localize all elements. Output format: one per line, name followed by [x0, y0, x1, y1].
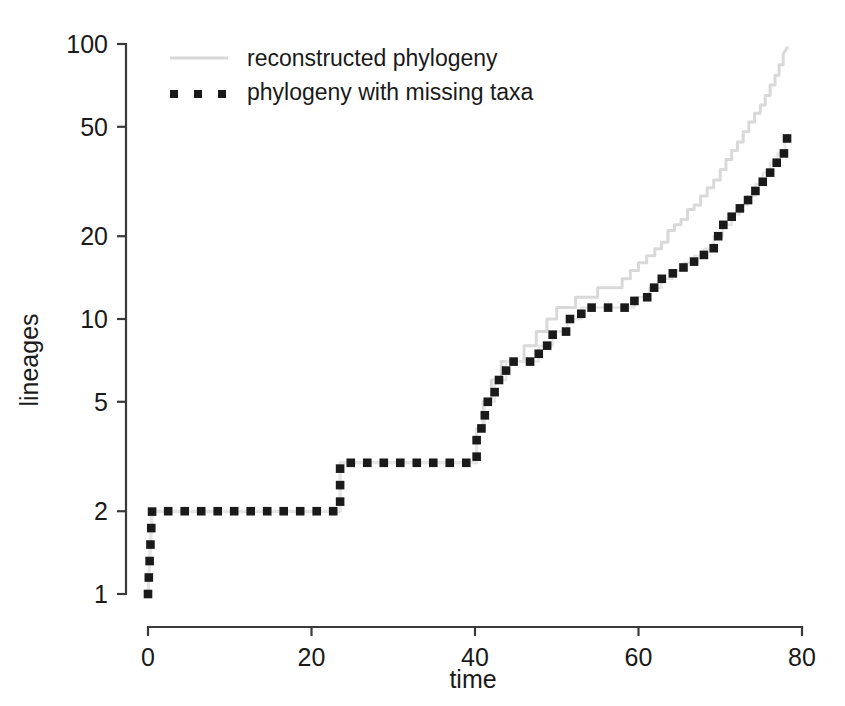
series-marker: [336, 497, 345, 506]
series-marker: [147, 524, 156, 533]
series-marker: [783, 134, 792, 143]
series-marker: [396, 458, 405, 467]
series-marker: [429, 458, 438, 467]
series-marker: [336, 481, 345, 490]
series-marker: [502, 366, 511, 375]
series-marker: [751, 187, 760, 196]
chart-canvas: 125102050100 020406080 lineages time rec…: [0, 0, 845, 706]
series-marker: [566, 315, 575, 324]
series-marker: [144, 590, 153, 599]
y-tick-label: 50: [80, 113, 108, 141]
series-marker: [650, 283, 659, 292]
y-tick-labels: 125102050100: [66, 30, 108, 608]
series-marker: [363, 458, 372, 467]
series-marker: [164, 507, 173, 516]
series-marker: [643, 293, 652, 302]
series-marker: [146, 540, 155, 549]
chart-legend: reconstructed phylogeny phylogeny with m…: [170, 45, 534, 105]
legend-swatch-missing-taxa-dot-1: [170, 90, 178, 98]
series-marker: [766, 168, 775, 177]
series-marker: [230, 507, 239, 516]
y-tick-label: 5: [94, 388, 108, 416]
y-tick-label: 2: [94, 497, 108, 525]
legend-label-missing-taxa: phylogeny with missing taxa: [247, 79, 534, 105]
y-axis-title: lineages: [15, 313, 43, 406]
series-marker: [526, 357, 535, 366]
series-marker: [758, 177, 767, 186]
legend-swatch-missing-taxa-dot-3: [218, 90, 226, 98]
series-marker: [472, 452, 481, 461]
series-marker: [279, 507, 288, 516]
y-tick-label: 100: [66, 30, 108, 58]
series-marker: [669, 269, 678, 278]
legend-label-reconstructed-phylogeny: reconstructed phylogeny: [247, 45, 498, 71]
x-tick-label: 80: [788, 643, 816, 671]
series-marker: [772, 158, 781, 167]
x-tick-label: 60: [625, 643, 653, 671]
series-marker: [145, 557, 154, 566]
series-marker: [145, 573, 154, 582]
series-marker: [490, 388, 499, 397]
series-marker: [620, 303, 629, 312]
series-marker: [709, 244, 718, 253]
series-marker: [719, 221, 728, 230]
series-marker: [379, 458, 388, 467]
axis-layer: [117, 44, 802, 636]
series-marker: [346, 458, 355, 467]
x-tick-label: 0: [141, 643, 155, 671]
y-tick-label: 10: [80, 305, 108, 333]
series-marker: [543, 341, 552, 350]
series-marker: [197, 507, 206, 516]
series-marker: [296, 507, 305, 516]
x-tick-label: 20: [298, 643, 326, 671]
series-marker: [744, 196, 753, 205]
y-tick-label: 1: [94, 580, 108, 608]
series-marker: [263, 507, 272, 516]
series-marker: [472, 436, 481, 445]
series-marker: [312, 507, 321, 516]
series-marker: [780, 149, 789, 158]
series-marker: [495, 376, 504, 385]
series-marker: [700, 251, 709, 260]
series-marker: [679, 263, 688, 272]
series-marker: [180, 507, 189, 516]
series-marker: [577, 309, 586, 318]
y-tick-label: 20: [80, 222, 108, 250]
series-marker: [509, 357, 518, 366]
data-series-layer: [144, 48, 792, 599]
series-marker: [690, 257, 699, 266]
series-marker: [727, 212, 736, 221]
series-marker: [412, 458, 421, 467]
series-marker: [246, 507, 255, 516]
series-marker: [714, 232, 723, 241]
series-marker: [736, 204, 745, 213]
series-marker: [630, 297, 639, 306]
series-marker: [336, 464, 345, 473]
series-marker: [148, 507, 157, 516]
legend-swatch-missing-taxa-dot-2: [194, 90, 202, 98]
series-marker: [213, 507, 222, 516]
series-marker: [548, 330, 557, 339]
series-marker: [477, 424, 486, 433]
series-marker: [587, 303, 596, 312]
series-marker: [658, 275, 667, 284]
series-marker: [445, 458, 454, 467]
series-marker: [329, 507, 338, 516]
series-marker: [481, 411, 490, 420]
series-marker: [483, 397, 492, 406]
lineage-through-time-chart: 125102050100 020406080 lineages time rec…: [0, 0, 845, 706]
series-marker: [534, 349, 543, 358]
series-marker: [562, 327, 571, 336]
x-axis-title: time: [449, 665, 496, 693]
series-marker: [604, 303, 613, 312]
series-marker: [462, 458, 471, 467]
